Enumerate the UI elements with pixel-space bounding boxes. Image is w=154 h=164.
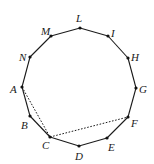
edge-GF [128,88,136,117]
vertex-point-F [126,115,129,118]
dodecagon-diagram: LIHGFEDCBANM [0,0,154,164]
vertex-point-B [28,114,31,117]
vertex-point-N [28,55,31,58]
edge-LI [80,28,108,36]
polygon-edges [22,28,136,146]
vertex-label-B: B [21,119,28,131]
vertex-label-A: A [9,83,17,95]
edge-IH [108,36,128,58]
edge-CB [30,116,50,137]
vertex-label-G: G [139,83,147,95]
dashed-segment-CF [50,117,128,137]
vertex-labels: LIHGFEDCBANM [9,12,147,162]
edge-BA [22,87,30,116]
vertex-label-M: M [40,25,51,37]
vertex-label-E: E [107,141,115,153]
edge-ML [51,28,80,36]
edge-DC [50,137,79,146]
vertex-label-N: N [18,51,27,63]
vertex-label-F: F [130,117,138,129]
vertex-point-A [20,85,23,88]
dashed-diagonals [22,87,128,137]
vertex-point-D [77,144,80,147]
vertex-label-D: D [74,150,83,162]
edge-NM [30,36,51,57]
vertex-point-E [105,136,108,139]
vertex-point-H [126,56,129,59]
vertex-label-H: H [130,51,140,63]
vertex-label-L: L [75,12,82,24]
diagram-canvas: LIHGFEDCBANM [0,0,154,164]
edge-ED [79,138,107,146]
edge-FE [107,117,128,138]
vertex-label-I: I [110,27,116,39]
vertex-point-I [106,34,109,37]
vertex-point-G [134,86,137,89]
vertex-point-L [78,26,81,29]
vertex-label-C: C [42,139,50,151]
